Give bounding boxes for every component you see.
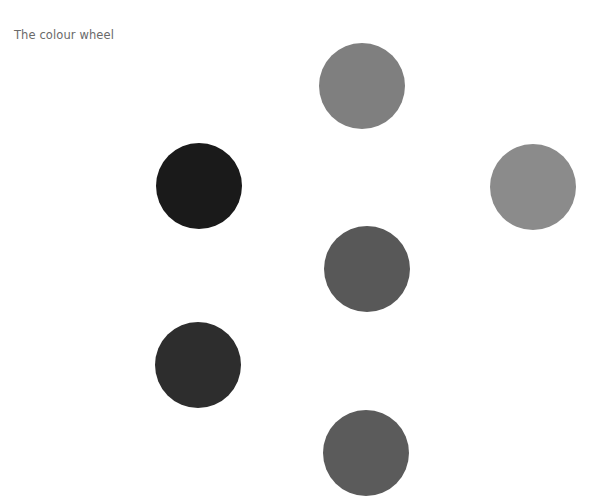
colour-circle-center xyxy=(324,226,410,312)
colour-circle-lower-left xyxy=(155,322,241,408)
colour-circle-bottom xyxy=(323,410,409,496)
diagram-title: The colour wheel xyxy=(14,28,114,42)
colour-circle-top xyxy=(319,43,405,129)
colour-circle-upper-left xyxy=(156,143,242,229)
colour-circle-right xyxy=(490,144,576,230)
